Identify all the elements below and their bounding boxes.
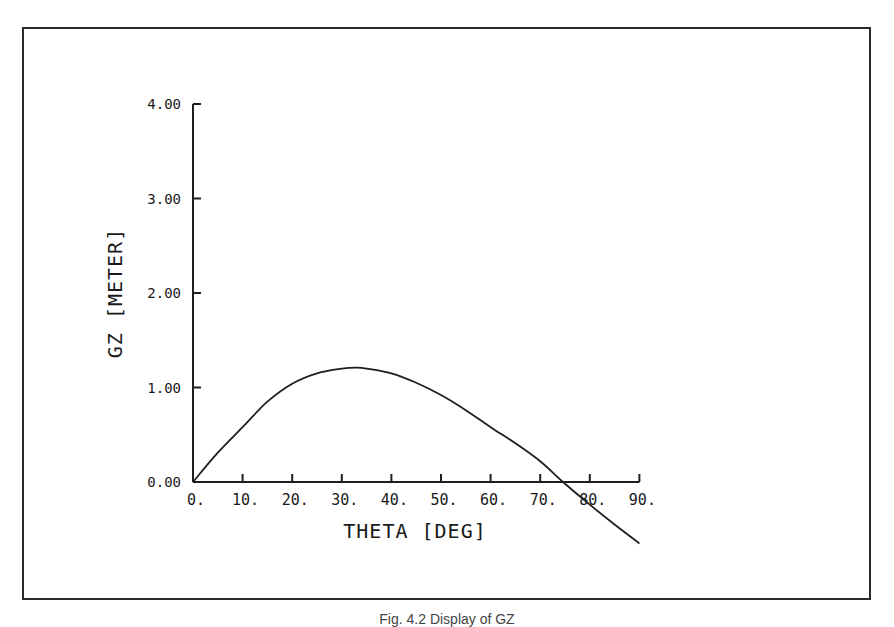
x-axis-label: THETA [DEG]	[343, 519, 486, 543]
y-tick-label: 3.00	[147, 191, 181, 207]
y-tick-label: 0.00	[147, 474, 181, 490]
y-tick-label: 2.00	[147, 285, 181, 301]
x-tick-label: 90.	[629, 491, 656, 509]
x-tick-label: 10.	[232, 491, 259, 509]
x-tick-label: 70.	[530, 491, 557, 509]
gz-curve-line	[193, 368, 639, 544]
x-tick-label: 30.	[331, 491, 358, 509]
x-tick-label: 40.	[381, 491, 408, 509]
x-tick-label: 0.	[187, 491, 205, 509]
axes	[193, 104, 639, 482]
y-tick-label: 1.00	[147, 380, 181, 396]
x-tick-label: 60.	[480, 491, 507, 509]
x-tick-label: 20.	[282, 491, 309, 509]
figure-caption: Fig. 4.2 Display of GZ	[0, 611, 894, 627]
x-tick-label: 50.	[430, 491, 457, 509]
y-axis-label: GZ [METER]	[103, 228, 127, 358]
y-tick-label: 4.00	[147, 96, 181, 112]
ticks	[193, 104, 639, 482]
